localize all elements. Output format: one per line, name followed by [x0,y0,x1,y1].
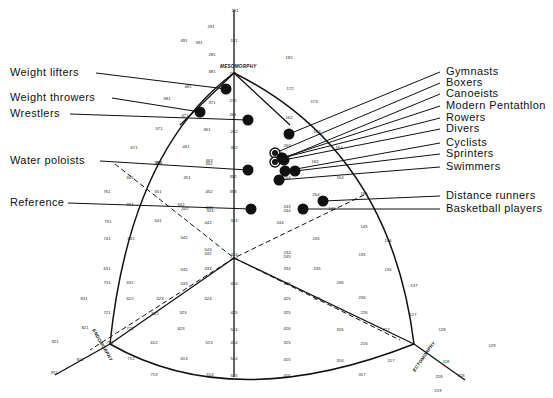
grid-number: 118 [443,359,450,364]
grid-number: 622 [152,311,160,316]
grid-number: 261 [230,112,238,117]
grid-number: 245 [284,254,292,259]
grid-number: 533 [181,281,189,286]
grid-number: 146 [385,238,393,243]
grid-number: 334 [284,266,292,271]
grid-number: 551 [155,189,163,194]
grid-number: 613 [181,356,189,361]
group-point [298,204,309,215]
grid-number: 831 [81,296,89,301]
group-label: Weight throwers [10,91,95,103]
group-label: Sprinters [446,147,494,159]
grid-number: 325 [284,310,292,315]
grid-number: 216 [361,341,369,346]
group-label: Modern Pentathlon [446,99,546,111]
grid-number: 424 [231,281,239,286]
group-label: Wrestlers [10,107,60,119]
grid-number: 137 [411,283,419,288]
grid-number: 145 [361,224,369,229]
grid-number: 414 [231,340,239,345]
grid-number: 236 [359,295,367,300]
grid-number: 335 [284,281,292,286]
grid-number: 416 [284,373,292,378]
grid-number: 316 [337,358,345,363]
grid-number: 391 [196,40,204,45]
grid-number: 442 [205,220,213,225]
grid-number: 711 [107,340,114,345]
grid-number: 343 [207,208,215,213]
grid-number: 432 [205,251,213,256]
group-point [279,155,290,166]
grid-number: 182 [286,55,294,60]
grid-number: 612 [151,340,159,345]
group-label: Divers [446,122,480,134]
grid-number: 631 [104,266,112,271]
grid-number: 317 [359,372,367,377]
grid-number: 623 [178,326,186,331]
grid-number: 136 [385,267,393,272]
group-point [280,166,291,177]
group-label: Canoeists [446,87,499,99]
grid-number: 165 [312,159,320,164]
group-label: Reference [10,196,64,208]
grid-number: 713 [151,372,159,377]
grid-number: 622 [127,296,135,301]
grid-number: 524 [205,296,213,301]
somatotype-grid-numbers: 1912911814913912811823812711724811735813… [51,8,497,393]
grid-number: 671 [131,145,139,150]
axis-label-mesomorphy: MESOMORPHY [220,64,257,69]
grid-number: 155 [361,191,369,196]
grid-number: 361 [204,127,212,132]
grid-number: 532 [181,267,189,272]
group-label: Water poloists [10,154,85,166]
grid-number: 129 [489,343,497,348]
group-point [243,165,254,176]
group-point [195,107,206,118]
grid-number: 333 [231,256,239,261]
group-point [221,84,232,95]
grid-number: 513 [206,340,214,345]
grid-number: 272 [230,98,238,103]
grid-number: 362 [231,145,239,150]
group-point [243,115,254,126]
grid-number: 343 [231,218,239,223]
grid-number: 119 [458,373,465,378]
grid-number: 235 [314,266,322,271]
grid-number: 433 [205,266,213,271]
grid-number: 281 [209,52,217,57]
grid-number: 921 [52,339,60,344]
grid-number: 661 [127,175,135,180]
grid-number: 542 [181,235,189,240]
grid-number: 181 [231,38,239,43]
axis-lines [55,10,465,380]
grid-number: 172 [287,86,295,91]
grid-number: 712 [128,356,136,361]
grid-number: 523 [180,310,188,315]
grid-number: 425 [231,310,239,315]
grid-number: 326 [337,327,345,332]
grid-number: 353 [230,189,238,194]
grid-number: 523 [157,296,165,301]
grid-number: 371 [209,100,217,105]
grid-number: 461 [183,144,191,149]
group-labels: Weight liftersWeight throwersWrestlersWa… [10,65,546,214]
grid-number: 128 [439,327,447,332]
grid-number: 751 [105,219,113,224]
grid-number: 352 [230,174,238,179]
grid-number: 452 [206,189,214,194]
somatochart-boundary [110,73,414,380]
grid-number: 491 [181,38,189,43]
grid-number: 262 [231,129,239,134]
group-label: Basketball players [446,202,543,214]
grid-number: 127 [410,312,418,317]
grid-number: 451 [184,175,192,180]
group-label: Swimmers [446,160,501,172]
grid-number: 173 [311,99,319,104]
grid-number: 514 [231,356,239,361]
grid-number: 415 [284,357,292,362]
grid-number: 244 [277,220,285,225]
grid-number: 731 [104,280,112,285]
grid-number: 218 [436,374,444,379]
grid-number: 254 [313,192,321,197]
grid-number: 614 [207,372,215,377]
